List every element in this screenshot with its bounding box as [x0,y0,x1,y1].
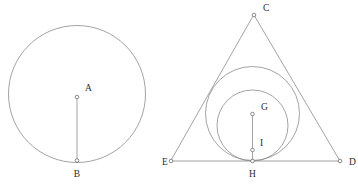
geometry-figure-canvas: A B C D E G I H [0,0,358,186]
point-marker-i[interactable] [251,148,255,152]
point-marker-a[interactable] [75,95,79,99]
point-marker-g[interactable] [251,112,255,116]
point-label-a: A [85,83,92,93]
point-label-g: G [261,102,268,112]
triangle-ced [171,15,340,161]
point-marker-h[interactable] [251,159,255,163]
point-label-c: C [263,3,269,13]
point-label-b: B [74,169,80,179]
point-label-d: D [349,157,356,167]
point-marker-b[interactable] [75,159,79,163]
right-figure-group: C D E G I H [162,3,356,179]
point-marker-e[interactable] [169,159,173,163]
point-label-h: H [249,169,256,179]
left-figure-group: A B [9,26,146,180]
point-label-i: I [260,138,263,148]
point-label-e: E [162,157,168,167]
point-marker-d[interactable] [338,159,342,163]
point-marker-c[interactable] [252,13,256,17]
